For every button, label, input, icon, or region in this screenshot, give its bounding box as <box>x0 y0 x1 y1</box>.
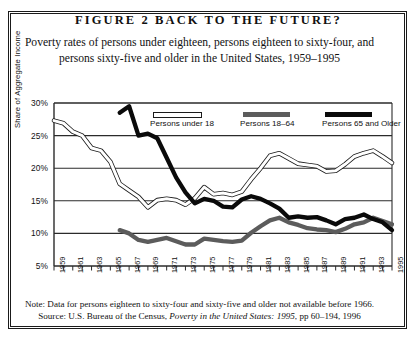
legend-swatch <box>243 112 290 117</box>
source-title: Poverty in the United States: 1995 <box>169 311 295 321</box>
x-axis-tick-label: 1965 <box>114 264 123 273</box>
source-line: Source: U.S. Bureau of the Census, Pover… <box>14 310 385 322</box>
x-axis-tick-label: 1985 <box>302 264 311 273</box>
x-axis-tick-label: 1973 <box>189 264 198 273</box>
x-axis-tick-label: 1961 <box>76 264 85 273</box>
series-white-outline <box>54 121 392 208</box>
x-axis-tick-label: 1971 <box>170 264 179 273</box>
x-axis-tick-label: 1993 <box>377 264 386 273</box>
x-axis-tick-label: 1989 <box>339 264 348 273</box>
y-axis-tick: 20% <box>22 163 48 173</box>
x-axis-tick-label: 1995 <box>396 264 405 273</box>
series-gray <box>120 218 392 245</box>
figure-footnote: Note: Data for persons eighteen to sixty… <box>14 298 385 323</box>
y-axis-tick: 30% <box>22 98 48 108</box>
legend-swatch <box>325 112 372 117</box>
x-axis-tick-label: 1983 <box>283 264 292 273</box>
x-axis-tick-label: 1975 <box>208 264 217 273</box>
chart-svg <box>0 0 417 339</box>
x-axis-tick-label: 1981 <box>264 264 273 273</box>
x-axis-tick-label: 1967 <box>133 264 142 273</box>
legend-label: Persons under 18 <box>150 119 214 128</box>
note-line: Note: Data for persons eighteen to sixty… <box>25 299 374 309</box>
legend-label: Persons 18–64 <box>240 119 294 128</box>
chart-plot-area: Share of Aggregate Income 30%25%20%15%10… <box>0 0 417 339</box>
x-axis-tick-label: 1991 <box>358 264 367 273</box>
legend-swatch <box>153 112 202 118</box>
y-axis-tick: 5% <box>22 261 48 271</box>
y-axis-label: Share of Aggregate Income <box>13 114 22 128</box>
y-axis-tick: 10% <box>22 228 48 238</box>
source-prefix: Source: U.S. Bureau of the Census, <box>38 311 169 321</box>
x-axis-tick-label: 1977 <box>227 264 236 273</box>
x-axis-tick-label: 1979 <box>245 264 254 273</box>
x-axis-tick-label: 1959 <box>58 264 67 273</box>
legend-label: Persons 65 and Older <box>322 119 401 128</box>
y-axis-tick: 15% <box>22 196 48 206</box>
y-axis-tick: 25% <box>22 131 48 141</box>
x-axis-tick-label: 1963 <box>95 264 104 273</box>
x-axis-tick-label: 1969 <box>151 264 160 273</box>
x-axis-tick-label: 1987 <box>320 264 329 273</box>
source-suffix: , pp 60–194, 1996 <box>295 311 361 321</box>
